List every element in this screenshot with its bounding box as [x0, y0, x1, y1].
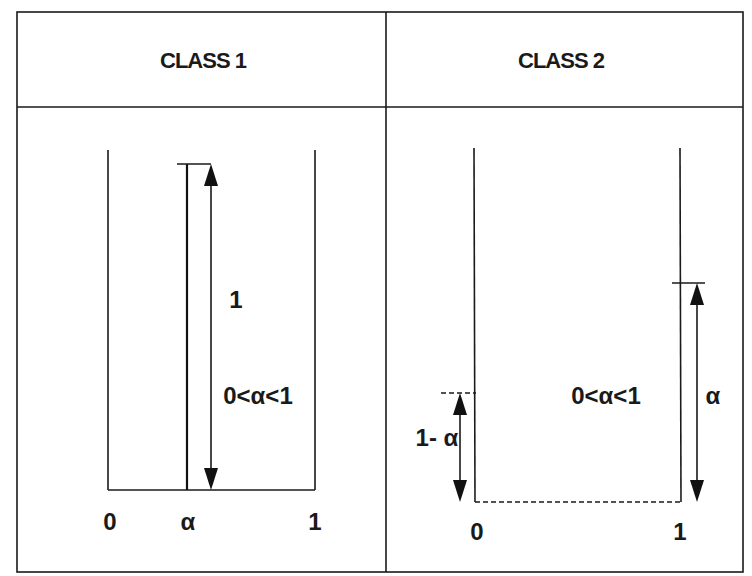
- arrow-up-icon: [453, 393, 467, 415]
- table-frame: [17, 12, 743, 572]
- class-2-header: CLASS 2: [518, 48, 605, 73]
- outer-border: [17, 12, 743, 572]
- class-1-height-label: 1: [229, 286, 242, 313]
- arrow-down-icon: [690, 480, 704, 502]
- class-1-axis-zero: 0: [103, 508, 116, 535]
- class-comparison-diagram: CLASS 1 CLASS 2 1 0<α<1 0 α 1: [0, 0, 752, 576]
- class-1-panel: 1 0<α<1 0 α 1: [103, 150, 321, 535]
- arrow-up-icon: [690, 283, 704, 305]
- class-2-left-wall: [474, 148, 475, 502]
- class-1-header: CLASS 1: [160, 48, 247, 73]
- class-2-panel: 1- α α 0<α<1 0 1: [416, 148, 721, 545]
- class-2-right-height-label: α: [706, 382, 721, 409]
- class-2-right-step: [680, 148, 681, 502]
- class-1-axis-one: 1: [308, 508, 321, 535]
- class-1-axis-alpha: α: [181, 508, 196, 535]
- arrow-down-icon: [204, 468, 218, 490]
- class-2-left-height-label: 1- α: [416, 424, 459, 451]
- class-2-axis-zero: 0: [470, 518, 483, 545]
- class-2-axis-one: 1: [673, 518, 686, 545]
- class-2-condition-label: 0<α<1: [571, 382, 640, 409]
- arrow-up-icon: [204, 164, 218, 186]
- class-1-condition-label: 0<α<1: [223, 382, 292, 409]
- arrow-down-icon: [453, 480, 467, 502]
